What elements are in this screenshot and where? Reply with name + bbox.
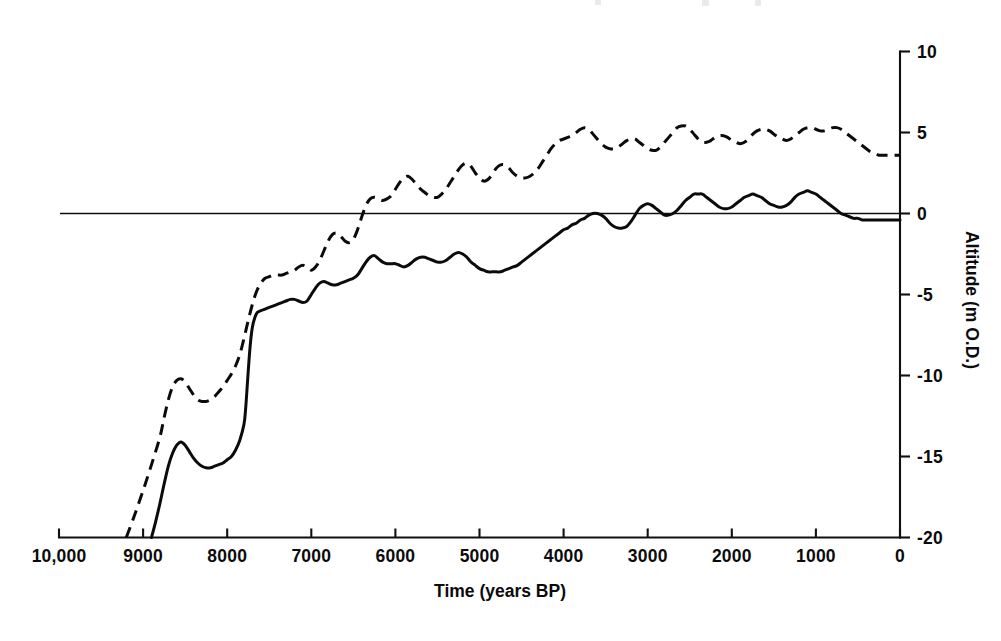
chart-figure: 10,0009000800070006000500040003000200010… — [0, 0, 1001, 641]
axis-group — [59, 52, 910, 538]
y-tick-label-5: 5 — [917, 123, 927, 143]
y-tick-label-0: 0 — [917, 204, 927, 224]
x-tick-label-9000: 9000 — [123, 546, 163, 566]
x-axis-title: Time (years BP) — [434, 581, 566, 601]
y-tick-label--10: -10 — [917, 366, 943, 386]
x-tick-label-1000: 1000 — [796, 546, 836, 566]
x-axis-tick-labels: 10,0009000800070006000500040003000200010… — [32, 546, 905, 566]
y-axis-tick-labels: 1050-5-10-15-20 — [917, 42, 943, 548]
sea-level-curve-plot: 10,0009000800070006000500040003000200010… — [0, 0, 1001, 641]
x-tick-label-3000: 3000 — [628, 546, 668, 566]
x-tick-label-6000: 6000 — [376, 546, 416, 566]
y-tick-label--5: -5 — [917, 285, 933, 305]
x-axis-ticks — [59, 529, 900, 538]
series-upper-envelope-dashed — [126, 126, 900, 538]
y-axis-ticks — [900, 52, 910, 538]
x-tick-label-5000: 5000 — [460, 546, 500, 566]
y-tick-label--20: -20 — [917, 528, 943, 548]
x-tick-label-8000: 8000 — [207, 546, 247, 566]
x-tick-label-7000: 7000 — [291, 546, 331, 566]
y-tick-label-10: 10 — [917, 42, 937, 62]
x-tick-label-10,000: 10,000 — [32, 546, 87, 566]
series-lower-envelope-solid — [152, 191, 900, 538]
y-tick-label--15: -15 — [917, 447, 943, 467]
x-tick-label-0: 0 — [895, 546, 905, 566]
series-group — [126, 126, 900, 538]
y-axis-title: Altitude (m O.D.) — [962, 231, 982, 369]
x-tick-label-4000: 4000 — [544, 546, 584, 566]
x-tick-label-2000: 2000 — [712, 546, 752, 566]
